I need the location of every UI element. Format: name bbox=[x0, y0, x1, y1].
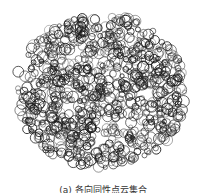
figure-caption: (a) 各向同性点云集合 bbox=[0, 184, 206, 193]
circles-group bbox=[13, 13, 189, 172]
circle-cloud-figure bbox=[0, 0, 206, 182]
